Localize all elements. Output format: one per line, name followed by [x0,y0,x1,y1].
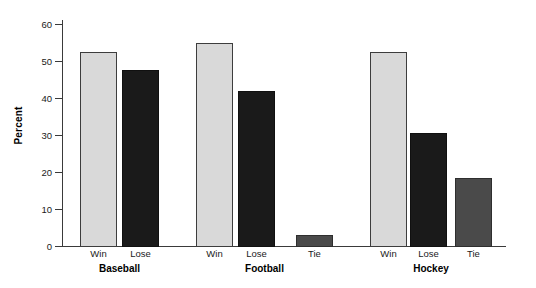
bar-label-hockey-win: Win [370,249,407,259]
group-label-football: Football [196,263,333,274]
bar-label-hockey-tie: Tie [455,249,492,259]
bar-label-hockey-lose: Lose [410,249,447,259]
bar-label-football-win: Win [196,249,233,259]
group-label-hockey: Hockey [370,263,492,274]
group-label-baseball: Baseball [80,263,159,274]
bar-football-win[interactable] [196,43,233,247]
bar-hockey-lose[interactable] [410,133,447,247]
bar-label-baseball-win: Win [80,249,117,259]
bar-baseball-lose[interactable] [122,70,159,247]
bar-label-baseball-lose: Lose [122,249,159,259]
bar-football-lose[interactable] [238,91,275,247]
bar-label-football-tie: Tie [296,249,333,259]
plot-area [0,0,536,288]
bar-chart: Percent 60 50 40 30 20 10 0 Win Lose Win… [0,0,536,288]
bar-hockey-win[interactable] [370,52,407,247]
bar-football-tie[interactable] [296,235,333,247]
bar-hockey-tie[interactable] [455,178,492,247]
bar-label-football-lose: Lose [238,249,275,259]
bar-baseball-win[interactable] [80,52,117,247]
